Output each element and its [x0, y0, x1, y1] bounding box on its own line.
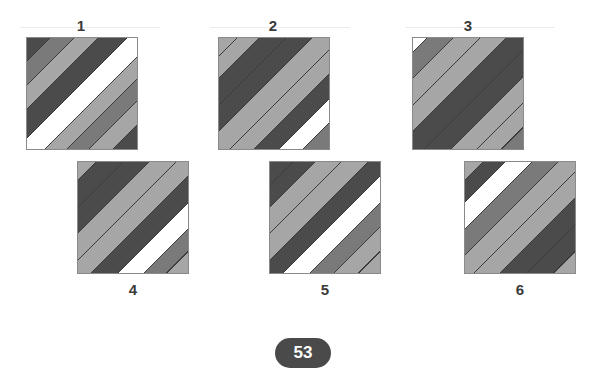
- option-label-5: 5: [268, 281, 382, 298]
- option-square-4[interactable]: [77, 161, 189, 274]
- page-number-badge: 53: [275, 338, 331, 368]
- option-square-3[interactable]: [412, 37, 524, 150]
- option-label-2: 2: [216, 17, 330, 34]
- option-square-1[interactable]: [26, 37, 138, 150]
- option-square-6[interactable]: [464, 161, 576, 274]
- option-square-2[interactable]: [218, 37, 330, 150]
- option-label-3: 3: [411, 17, 525, 34]
- option-square-5[interactable]: [269, 161, 381, 274]
- option-label-6: 6: [463, 281, 577, 298]
- option-label-4: 4: [76, 281, 190, 298]
- option-label-1: 1: [24, 17, 138, 34]
